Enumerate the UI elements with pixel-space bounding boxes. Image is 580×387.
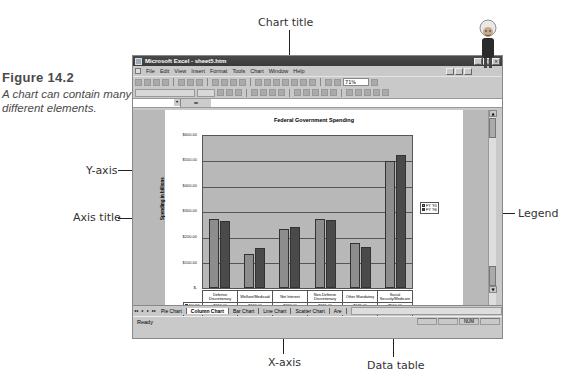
menu-bar: File Edit View Insert Format Tools Chart…	[133, 66, 502, 76]
increase-decimal-icon[interactable]	[321, 89, 328, 96]
menu-chart[interactable]: Chart	[250, 68, 263, 74]
fill-color-icon[interactable]	[373, 89, 380, 96]
decrease-decimal-icon[interactable]	[330, 89, 337, 96]
currency-icon[interactable]	[294, 89, 301, 96]
bar[interactable]	[290, 227, 300, 288]
comma-icon[interactable]	[312, 89, 319, 96]
redo-icon[interactable]	[264, 79, 271, 86]
merge-center-icon[interactable]	[278, 89, 285, 96]
vertical-scrollbar[interactable]: ▲ ▼	[488, 110, 496, 305]
chart-title[interactable]: Federal Government Spending	[165, 117, 463, 123]
chevron-down-icon[interactable]: ▾	[174, 99, 180, 106]
formula-equals-icon[interactable]: =	[181, 99, 211, 107]
zoom-select[interactable]: 71%	[343, 78, 369, 86]
tab-area-chart[interactable]: Are	[330, 308, 347, 314]
toolbar-separator	[246, 89, 247, 97]
menu-help[interactable]: Help	[293, 68, 304, 74]
scroll-down-arrow-icon[interactable]: ▼	[489, 286, 497, 293]
bar[interactable]	[326, 220, 336, 288]
bar[interactable]	[396, 155, 406, 288]
print-icon[interactable]	[178, 79, 185, 86]
menu-tools[interactable]: Tools	[232, 68, 245, 74]
doc-restore-button[interactable]	[455, 68, 463, 75]
menu-insert[interactable]: Insert	[191, 68, 205, 74]
bar[interactable]	[220, 221, 230, 288]
bar[interactable]	[350, 243, 360, 288]
sort-desc-icon[interactable]	[309, 79, 316, 86]
hyperlink-icon[interactable]	[273, 79, 280, 86]
spelling-icon[interactable]	[196, 79, 203, 86]
tab-bar-chart[interactable]: Bar Chart	[229, 308, 259, 314]
plot-area[interactable]	[202, 135, 413, 289]
paste-icon[interactable]	[230, 79, 237, 86]
undo-icon[interactable]	[255, 79, 262, 86]
chart-sheet-area: Federal Government Spending $600.00 $500…	[133, 110, 496, 305]
bar[interactable]	[244, 254, 254, 288]
name-box[interactable]: ▾	[133, 99, 181, 107]
sheet-tabs-bar: ◂◂ ◂ ▸ ▸▸ Pie Chart Column Chart Bar Cha…	[133, 305, 502, 315]
scroll-thumb[interactable]	[489, 118, 496, 138]
y-tick-label: $200.00	[171, 234, 197, 239]
decrease-indent-icon[interactable]	[346, 89, 353, 96]
bar[interactable]	[385, 161, 395, 288]
copy-icon[interactable]	[221, 79, 228, 86]
category-label: Defense Discretionary	[203, 291, 238, 303]
doc-close-button[interactable]	[464, 68, 472, 75]
office-assistant-einstein-icon[interactable]	[477, 18, 499, 70]
new-icon[interactable]	[135, 79, 142, 86]
align-left-icon[interactable]	[251, 89, 258, 96]
bar[interactable]	[315, 219, 325, 288]
percent-icon[interactable]	[303, 89, 310, 96]
bar[interactable]	[361, 247, 371, 288]
help-icon[interactable]	[371, 79, 378, 86]
function-icon[interactable]	[291, 79, 298, 86]
bar[interactable]	[209, 219, 219, 288]
y-tick-label: $500.00	[171, 157, 197, 162]
font-select[interactable]	[135, 89, 195, 97]
bar[interactable]	[255, 248, 265, 288]
tab-pie-chart[interactable]: Pie Chart	[157, 308, 187, 314]
doc-minimize-button[interactable]	[446, 68, 454, 75]
print-preview-icon[interactable]	[187, 79, 194, 86]
chart-area[interactable]: Federal Government Spending $600.00 $500…	[165, 110, 463, 305]
window-title: Microsoft Excel - sheet5.htm	[145, 58, 226, 64]
borders-icon[interactable]	[364, 89, 371, 96]
sort-asc-icon[interactable]	[300, 79, 307, 86]
tab-scatter-chart[interactable]: Scatter Chart	[291, 308, 329, 314]
save-icon[interactable]	[153, 79, 160, 86]
drawing-icon[interactable]	[334, 79, 341, 86]
menu-file[interactable]: File	[146, 68, 155, 74]
menu-window[interactable]: Window	[269, 68, 289, 74]
email-icon[interactable]	[162, 79, 169, 86]
cut-icon[interactable]	[212, 79, 219, 86]
tab-column-chart[interactable]: Column Chart	[187, 308, 229, 314]
legend[interactable]: FY '95 FY '96	[420, 202, 439, 214]
align-center-icon[interactable]	[260, 89, 267, 96]
autosum-icon[interactable]	[282, 79, 289, 86]
y-axis-title[interactable]: Spending in billions	[160, 177, 165, 220]
align-right-icon[interactable]	[269, 89, 276, 96]
bar[interactable]	[279, 229, 289, 288]
font-color-icon[interactable]	[382, 89, 389, 96]
menu-format[interactable]: Format	[210, 68, 227, 74]
menu-view[interactable]: View	[174, 68, 186, 74]
tab-line-chart[interactable]: Line Chart	[259, 308, 291, 314]
scroll-up-arrow-icon[interactable]: ▲	[489, 110, 497, 117]
horizontal-scrollbar[interactable]	[351, 307, 502, 315]
font-size-select[interactable]	[197, 89, 215, 97]
underline-icon[interactable]	[235, 89, 242, 96]
format-painter-icon[interactable]	[239, 79, 246, 86]
italic-icon[interactable]	[226, 89, 233, 96]
document-icon[interactable]	[135, 68, 141, 74]
open-icon[interactable]	[144, 79, 151, 86]
menu-edit[interactable]: Edit	[160, 68, 169, 74]
increase-indent-icon[interactable]	[355, 89, 362, 96]
toolbar-separator	[173, 78, 174, 86]
figure-caption: Figure 14.2 A chart can contain many dif…	[2, 70, 132, 115]
scroll-thumb-lower[interactable]	[489, 266, 496, 286]
chart-wizard-icon[interactable]	[325, 79, 332, 86]
bold-icon[interactable]	[217, 89, 224, 96]
excel-app-icon	[135, 58, 142, 65]
callout-data-table: Data table	[367, 359, 425, 372]
status-cell	[480, 318, 500, 325]
